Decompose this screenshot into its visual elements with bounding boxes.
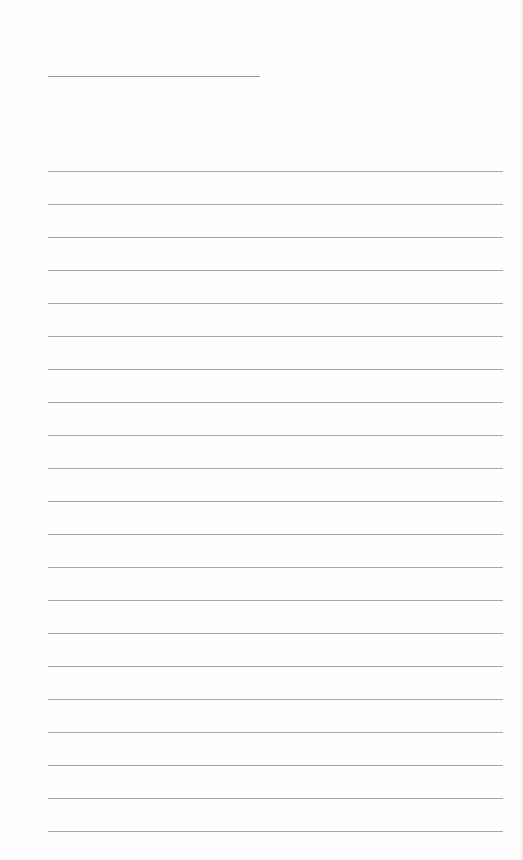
ruled-line xyxy=(48,237,503,238)
ruled-line xyxy=(48,369,503,370)
ruled-line xyxy=(48,171,503,172)
ruled-line xyxy=(48,666,503,667)
ruled-line xyxy=(48,303,503,304)
ruled-line xyxy=(48,633,503,634)
ruled-line xyxy=(48,567,503,568)
ruled-line xyxy=(48,831,503,832)
page-edge-shadow xyxy=(519,0,523,860)
ruled-line xyxy=(48,798,503,799)
ruled-line xyxy=(48,699,503,700)
ruled-line xyxy=(48,468,503,469)
ruled-line xyxy=(48,501,503,502)
ruled-line xyxy=(48,402,503,403)
lined-paper-page xyxy=(0,0,523,860)
ruled-line xyxy=(48,336,503,337)
ruled-line xyxy=(48,600,503,601)
ruled-line xyxy=(48,732,503,733)
ruled-line xyxy=(48,270,503,271)
ruled-line xyxy=(48,765,503,766)
ruled-line xyxy=(48,204,503,205)
ruled-line xyxy=(48,534,503,535)
title-underline xyxy=(48,76,260,77)
ruled-line xyxy=(48,435,503,436)
